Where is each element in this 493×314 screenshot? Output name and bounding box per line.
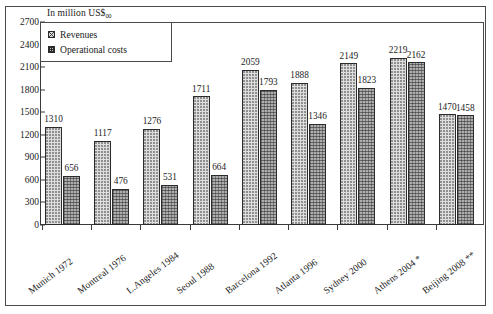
- bar-value-label: 1458: [456, 104, 475, 113]
- legend-swatch-costs-icon: [48, 46, 55, 53]
- bar-revenues: [242, 70, 259, 225]
- bar-revenues: [340, 63, 357, 225]
- x-axis-tick-mark: [485, 225, 486, 230]
- y-axis-tick-label: 1200: [5, 130, 45, 140]
- bar-group: 22192162: [390, 22, 439, 225]
- x-axis-tick-mark: [42, 225, 43, 230]
- bar-group: 14701458: [439, 22, 488, 225]
- bar-value-label: 2149: [340, 52, 359, 61]
- x-axis-tick-mark: [140, 225, 141, 230]
- x-axis-tick-mark: [436, 225, 437, 230]
- legend: Revenues Operational costs: [40, 22, 172, 62]
- x-axis-tick-mark: [387, 225, 388, 230]
- bar-value-label: 531: [163, 173, 177, 182]
- bar-costs: [112, 189, 129, 225]
- x-axis-tick-mark: [239, 225, 240, 230]
- bar-costs: [457, 115, 474, 225]
- bar-value-label: 476: [114, 177, 128, 186]
- bar-value-label: 1793: [259, 78, 278, 87]
- bar-value-label: 2059: [241, 58, 260, 67]
- y-axis-unit-text: In million US$: [47, 8, 105, 18]
- legend-swatch-revenues-icon: [48, 31, 55, 38]
- bar-revenues: [94, 141, 111, 225]
- bar-group: 20591793: [242, 22, 291, 225]
- bar-revenues: [390, 58, 407, 225]
- bar-value-label: 656: [65, 164, 79, 173]
- bar-costs: [63, 176, 80, 225]
- y-axis-unit-title: In million US$00: [47, 8, 111, 19]
- y-axis-unit-subscript: 00: [105, 12, 111, 19]
- y-axis: 0300600900120015001800210024002700: [0, 0, 45, 314]
- y-axis-tick-label: 2400: [5, 40, 45, 50]
- bar-value-label: 1888: [290, 71, 309, 80]
- bar-costs: [408, 62, 425, 225]
- bar-revenues: [439, 114, 456, 225]
- y-axis-tick-label: 0: [5, 220, 45, 230]
- y-axis-tick-label: 300: [5, 197, 45, 207]
- x-axis-tick-mark: [91, 225, 92, 230]
- bar-revenues: [45, 127, 62, 225]
- y-axis-tick-label: 900: [5, 152, 45, 162]
- bar-group: 21491823: [340, 22, 389, 225]
- bar-costs: [309, 124, 326, 225]
- bar-group: 1711664: [193, 22, 242, 225]
- bar-revenues: [193, 96, 210, 225]
- bar-group: 18881346: [291, 22, 340, 225]
- x-axis-tick-mark: [337, 225, 338, 230]
- bar-costs: [161, 185, 178, 225]
- bar-costs: [211, 175, 228, 225]
- bar-value-label: 1470: [438, 103, 457, 112]
- bar-costs: [260, 90, 277, 225]
- bar-chart: In million US$00 03006009001200150018002…: [0, 0, 493, 314]
- bar-value-label: 1711: [192, 85, 210, 94]
- y-axis-tick-label: 1800: [5, 85, 45, 95]
- bar-value-label: 1346: [308, 112, 327, 121]
- bar-value-label: 1276: [143, 117, 162, 126]
- bar-value-label: 1823: [358, 76, 377, 85]
- y-axis-tick-label: 1500: [5, 107, 45, 117]
- bar-value-label: 664: [212, 163, 226, 172]
- legend-label-operational-costs: Operational costs: [60, 44, 127, 55]
- legend-item-operational-costs: Operational costs: [48, 42, 165, 57]
- x-axis-tick-mark: [288, 225, 289, 230]
- bar-revenues: [143, 129, 160, 225]
- bar-value-label: 2219: [389, 46, 408, 55]
- y-axis-tick-label: 600: [5, 175, 45, 185]
- y-axis-tick-label: 2700: [5, 17, 45, 27]
- y-axis-tick-label: 2100: [5, 62, 45, 72]
- bar-revenues: [291, 83, 308, 225]
- legend-label-revenues: Revenues: [60, 29, 97, 40]
- bar-value-label: 1117: [94, 129, 112, 138]
- bar-value-label: 1310: [44, 115, 63, 124]
- bar-value-label: 2162: [407, 51, 426, 60]
- legend-item-revenues: Revenues: [48, 27, 165, 42]
- x-axis-tick-mark: [190, 225, 191, 230]
- bar-costs: [358, 88, 375, 225]
